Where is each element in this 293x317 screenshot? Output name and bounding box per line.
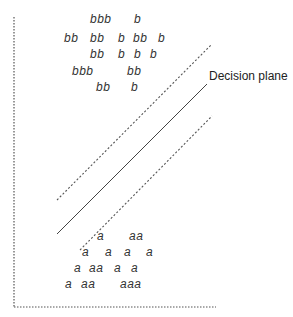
class-b-point: b xyxy=(134,12,141,26)
class-b-point: b xyxy=(118,31,125,45)
decision-plane-label: Decision plane xyxy=(209,69,288,83)
class-a-point: a xyxy=(131,261,138,275)
class-a-point: a xyxy=(82,245,89,259)
decision-plane-line xyxy=(57,84,207,234)
class-b-point: bbb xyxy=(90,12,112,26)
class-a-point: a xyxy=(124,245,131,259)
class-b-points: bbbbbbbbbbbbbbbbbbbbbbbbb xyxy=(64,12,165,94)
class-a-point: a xyxy=(146,245,153,259)
class-a-point: a xyxy=(114,261,121,275)
class-b-point: b xyxy=(158,31,165,45)
class-b-point: bb xyxy=(64,31,78,45)
class-a-point: aaa xyxy=(120,277,142,291)
class-a-point: a xyxy=(97,229,104,243)
class-a-point: aa xyxy=(89,261,103,275)
class-b-point: b xyxy=(118,47,125,61)
class-a-points: aaaaaaaaaaaaaaaaaa xyxy=(65,229,153,291)
class-b-point: bb xyxy=(90,47,104,61)
class-b-point: bbb xyxy=(72,64,94,78)
class-b-point: b xyxy=(150,47,157,61)
class-a-point: a xyxy=(74,261,81,275)
class-b-point: bb xyxy=(133,31,147,45)
class-b-point: b xyxy=(134,47,141,61)
class-b-point: b xyxy=(131,80,138,94)
class-a-point: a xyxy=(65,277,72,291)
class-a-point: a xyxy=(105,245,112,259)
class-b-point: bb xyxy=(127,64,141,78)
svm-decision-plane-diagram: Decision plane bbbbbbbbbbbbbbbbbbbbbbbbb… xyxy=(0,0,293,317)
class-b-point: bb xyxy=(96,80,110,94)
class-a-point: aa xyxy=(81,277,95,291)
diagram-svg: Decision plane bbbbbbbbbbbbbbbbbbbbbbbbb… xyxy=(0,0,293,317)
class-a-point: aa xyxy=(129,229,143,243)
class-b-point: bb xyxy=(90,31,104,45)
